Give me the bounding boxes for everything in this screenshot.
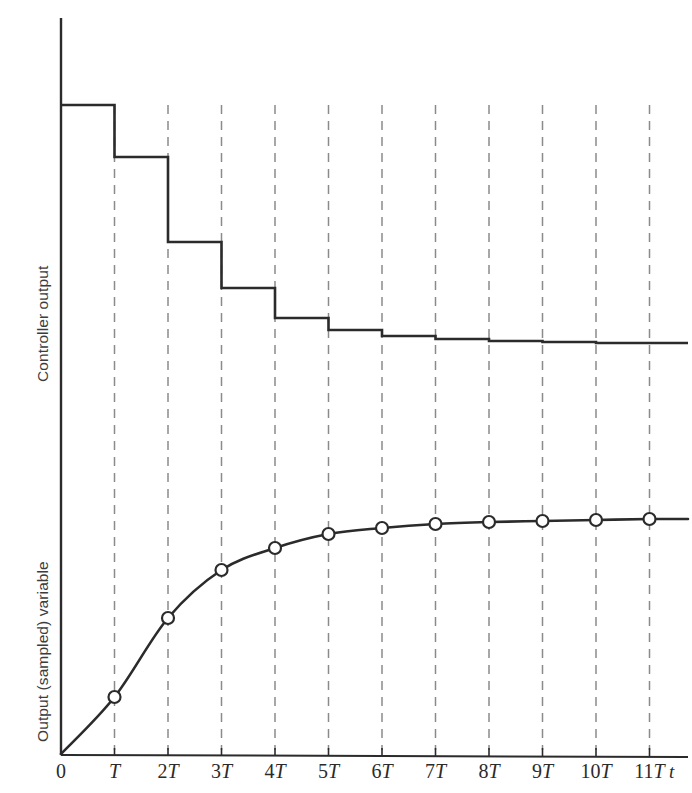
x-tick-label-3T: 3T (211, 760, 232, 783)
x-tick-label-2T: 2T (157, 760, 178, 783)
sample-marker-4T (269, 542, 281, 554)
y-axis-label-output-sampled-variable: Output (sampled) variable (34, 561, 52, 742)
x-tick-label-8T: 8T (478, 760, 499, 783)
sample-marker-9T (537, 515, 549, 527)
sample-marker-7T (430, 518, 442, 530)
x-tick-label-6T: 6T (371, 760, 392, 783)
sample-marker-2T (162, 612, 174, 624)
sample-marker-3T (216, 564, 228, 576)
x-tick-label-5T: 5T (318, 760, 339, 783)
sample-marker-6T (376, 522, 388, 534)
sample-marker-8T (483, 516, 495, 528)
chart-plot (0, 0, 692, 793)
sample-marker-5T (323, 528, 335, 540)
x-tick-label-0: 0 (56, 760, 66, 783)
x-tick-label-11T: 11T (634, 760, 664, 783)
sample-marker-T (109, 691, 121, 703)
sampled-output-curve-series (61, 519, 688, 754)
gridlines-group (115, 105, 650, 750)
x-tick-label-4T: 4T (264, 760, 285, 783)
figure-container: Controller output Output (sampled) varia… (0, 0, 692, 793)
sample-marker-10T (590, 514, 602, 526)
x-axis-line (61, 755, 688, 757)
x-tick-label-10T: 10T (580, 760, 611, 783)
x-axis-name-t: t (669, 761, 674, 783)
x-tick-label-7T: 7T (425, 760, 446, 783)
y-axis-label-controller-output: Controller output (34, 266, 52, 382)
x-tick-label-9T: 9T (532, 760, 553, 783)
axes-group (61, 18, 688, 757)
x-tick-label-T: T (109, 760, 120, 783)
controller-output-step-series (61, 105, 688, 343)
sample-marker-11T (644, 513, 656, 525)
